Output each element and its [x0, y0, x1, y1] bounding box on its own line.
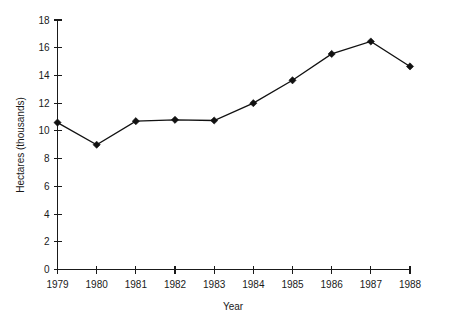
x-tick-label-1987: 1987: [360, 279, 383, 290]
y-tick-label-0: 0: [44, 264, 50, 275]
y-tick-label-12: 12: [38, 98, 50, 109]
y-tick-label-14: 14: [38, 70, 50, 81]
y-tick-label-18: 18: [38, 15, 50, 26]
y-tick-label-6: 6: [44, 181, 50, 192]
y-tick-label-2: 2: [44, 236, 50, 247]
y-tick-label-10: 10: [38, 125, 50, 136]
y-tick-label-16: 16: [38, 42, 50, 53]
x-tick-label-1981: 1981: [125, 279, 148, 290]
y-axis-title: Hectares (thousands): [15, 97, 26, 193]
x-tick-label-1988: 1988: [399, 279, 422, 290]
x-tick-label-1986: 1986: [321, 279, 344, 290]
line-chart: 024681012141618 197919801981198219831984…: [0, 0, 449, 327]
x-tick-label-1985: 1985: [281, 279, 304, 290]
x-tick-label-1983: 1983: [203, 279, 226, 290]
x-axis-title: Year: [223, 301, 244, 312]
x-tick-label-1984: 1984: [242, 279, 265, 290]
y-tick-label-8: 8: [44, 153, 50, 164]
x-tick-label-1979: 1979: [46, 279, 69, 290]
y-tick-label-4: 4: [44, 209, 50, 220]
x-tick-label-1982: 1982: [164, 279, 187, 290]
x-tick-label-1980: 1980: [86, 279, 109, 290]
chart-canvas: 024681012141618 197919801981198219831984…: [0, 0, 449, 327]
